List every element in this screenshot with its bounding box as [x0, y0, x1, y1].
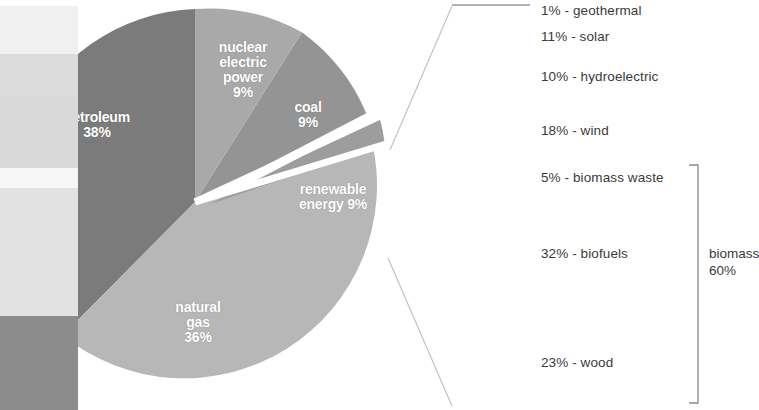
biomass-bracket-icon	[685, 160, 705, 410]
bar-label-hydroelectric: 10% - hydroelectric	[541, 69, 658, 84]
bar-label-solar: 11% - solar	[541, 29, 609, 44]
biomass-group-label: biomass 60%	[709, 245, 759, 279]
bar-label-biomass-waste: 5% - biomass waste	[541, 170, 664, 185]
pie-label-renewable-energy: renewable energy 9%	[277, 182, 389, 212]
bar-segment-geothermal[interactable]	[452, 4, 530, 6]
pie-label-nuclear-electric-power: nuclear electric power 9%	[203, 40, 283, 100]
bar-label-wind: 18% - wind	[541, 123, 609, 138]
bar-label-biofuels: 32% - biofuels	[541, 246, 628, 261]
pie-label-coal: coal 9%	[277, 100, 339, 130]
bar-segment-solar[interactable]	[0, 6, 78, 54]
bar-segment-biofuels[interactable]	[0, 188, 78, 316]
bar-label-wood: 23% - wood	[541, 355, 613, 370]
pie-label-natural-gas: natural gas 36%	[148, 300, 248, 345]
bar-segment-wood[interactable]	[0, 316, 78, 410]
bar-label-geothermal: 1% - geothermal	[541, 3, 642, 18]
bar-segment-hydroelectric[interactable]	[0, 54, 78, 95]
bar-segment-biomass-waste[interactable]	[0, 168, 78, 188]
bar-segment-wind[interactable]	[0, 95, 78, 168]
